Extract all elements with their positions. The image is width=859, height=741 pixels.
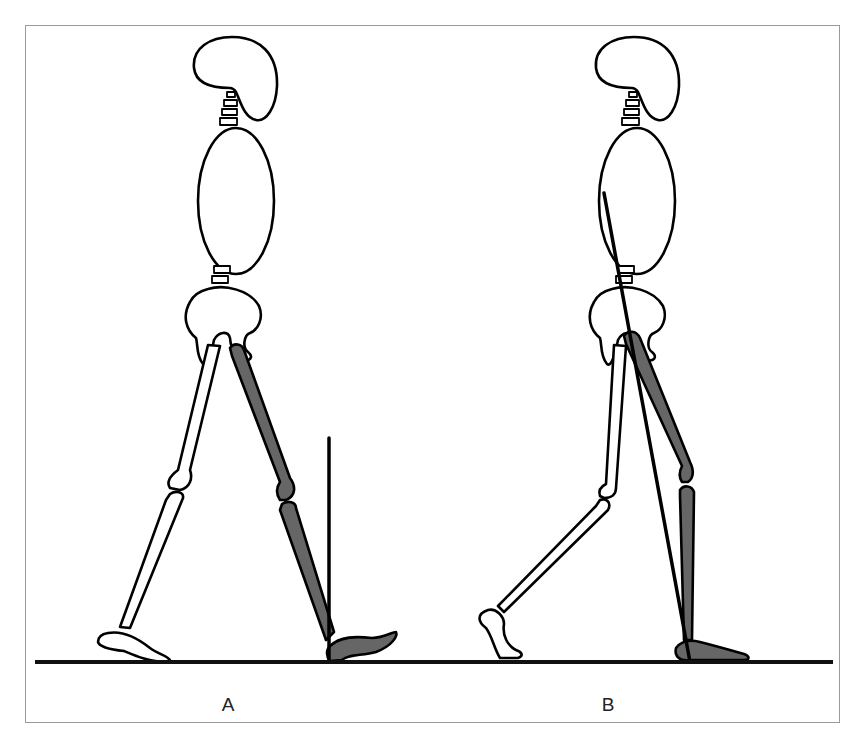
skull-icon <box>194 37 277 120</box>
cervical-spine <box>622 92 639 125</box>
pelvis-shape <box>186 287 261 364</box>
stance-tibia <box>280 502 334 640</box>
figure-b <box>480 37 749 662</box>
swing-femur <box>168 345 220 490</box>
gait-diagram <box>0 0 859 741</box>
swing-tibia <box>498 499 609 612</box>
trunk-shape <box>599 128 675 274</box>
swing-tibia <box>120 492 183 628</box>
figure-a <box>98 37 396 662</box>
skull-icon <box>596 37 679 120</box>
cervical-spine <box>220 92 237 125</box>
lumbar-spine <box>212 266 230 283</box>
swing-femur <box>599 345 626 498</box>
swing-foot <box>480 610 522 658</box>
panel-label-b: B <box>602 694 615 716</box>
stance-femur <box>230 344 294 500</box>
trunk-shape <box>198 128 274 274</box>
swing-foot <box>98 632 170 662</box>
panel-label-a: A <box>222 694 235 716</box>
stance-foot <box>327 632 396 661</box>
